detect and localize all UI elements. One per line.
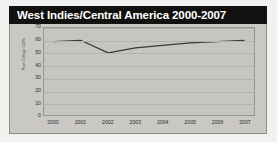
- x-tick-label: 2004: [150, 119, 176, 125]
- plot-area: [43, 27, 255, 116]
- y-tick-label: 20: [23, 88, 41, 93]
- x-tick-label: 2000: [40, 119, 66, 125]
- x-tick-label: 2005: [177, 119, 203, 125]
- gridline: [44, 79, 254, 80]
- y-tick-label: 10: [23, 101, 41, 106]
- gridline: [44, 41, 254, 42]
- x-tick-label: 2002: [95, 119, 121, 125]
- x-tick-label: 2001: [67, 119, 93, 125]
- plot-inner: [44, 28, 254, 115]
- y-tick-label: 70: [23, 24, 41, 29]
- y-tick-label: 30: [23, 75, 41, 80]
- gridline: [44, 104, 254, 105]
- gridline: [44, 28, 254, 29]
- gridline: [44, 92, 254, 93]
- y-tick-label: 40: [23, 63, 41, 68]
- y-tick-label: 60: [23, 37, 41, 42]
- gridline: [44, 66, 254, 67]
- gridline: [44, 53, 254, 54]
- y-tick-label: 0: [23, 113, 41, 118]
- x-tick-label: 2003: [122, 119, 148, 125]
- y-tick-label: 50: [23, 50, 41, 55]
- chart-figure: West Indies/Central America 2000-2007 Po…: [0, 0, 277, 142]
- chart-title: West Indies/Central America 2000-2007: [17, 9, 226, 21]
- x-tick-label: 2006: [205, 119, 231, 125]
- y-axis-ticks: 706050403020100: [23, 24, 41, 116]
- chart-title-bar: West Indies/Central America 2000-2007: [9, 6, 267, 24]
- x-tick-label: 2007: [232, 119, 258, 125]
- x-axis-ticks: 20002001200220032004200520062007: [43, 119, 255, 131]
- series-line: [54, 40, 244, 52]
- chart-body: Post College 100% 706050403020100 200020…: [9, 24, 267, 134]
